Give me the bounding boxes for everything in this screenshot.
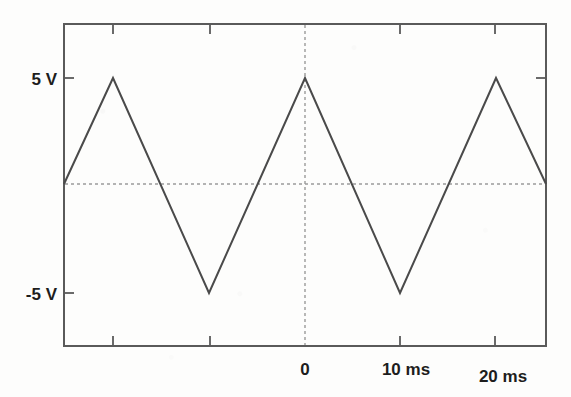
x-tick-label-10ms: 10 ms xyxy=(382,360,430,379)
triangle-wave-plot: 5 V -5 V 0 10 ms 20 ms xyxy=(0,0,571,397)
x-axis-ticks-bottom xyxy=(113,336,495,346)
y-tick-label--5v: -5 V xyxy=(26,285,58,304)
x-tick-label-20ms: 20 ms xyxy=(479,367,527,386)
x-axis-ticks-top xyxy=(113,24,495,34)
waveform-figure: 5 V -5 V 0 10 ms 20 ms xyxy=(0,0,571,397)
y-axis-ticks-left xyxy=(64,78,74,293)
y-tick-label-5v: 5 V xyxy=(31,70,57,89)
x-tick-label-0: 0 xyxy=(300,360,309,379)
